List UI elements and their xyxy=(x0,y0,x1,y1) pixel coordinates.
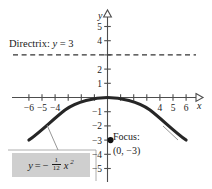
y-tick-label-4: 4 xyxy=(97,36,102,46)
y-tick-label--5: −5 xyxy=(92,164,102,174)
equation-fraction-numerator: 1 xyxy=(53,157,59,164)
x-tick-label--5: −5 xyxy=(37,103,47,113)
equation-exponent: 2 xyxy=(70,158,74,166)
x-tick-label-4: 4 xyxy=(158,103,163,113)
focus-label: Focus: xyxy=(113,132,140,142)
equation-equals: = xyxy=(35,160,41,171)
equation-variable: x xyxy=(64,160,69,171)
x-tick-label--6: −6 xyxy=(24,103,34,113)
y-tick-label-2: 2 xyxy=(97,65,102,75)
directrix-label: Directrix: y = 3 xyxy=(9,39,74,50)
equation-minus-sign: − xyxy=(43,160,49,171)
directrix-label-value: = 3 xyxy=(57,38,73,49)
equation-callout-box: y=−112x2 xyxy=(12,153,90,177)
y-tick-label--4: −4 xyxy=(92,150,102,160)
equation-fraction: 112 xyxy=(52,157,61,173)
y-axis-arrow-icon xyxy=(104,10,112,17)
y-tick-label--3: −3 xyxy=(92,136,102,146)
equation-lhs: y xyxy=(28,160,33,171)
x-tick-label--4: −4 xyxy=(50,103,60,113)
y-axis-label: y xyxy=(97,10,103,21)
directrix-label-prefix: Directrix: xyxy=(9,38,52,49)
equation-expression: y=−112x2 xyxy=(28,157,74,173)
x-tick-label-6: 6 xyxy=(184,103,189,113)
x-axis-label: x xyxy=(196,100,202,111)
x-tick-label-5: 5 xyxy=(171,103,176,113)
y-tick-label-1: 1 xyxy=(97,79,102,89)
equation-leader-line xyxy=(47,125,58,150)
y-tick-label--2: −2 xyxy=(92,121,102,131)
y-tick-label-5: 5 xyxy=(97,22,102,32)
y-tick-label--1: −1 xyxy=(92,107,102,117)
focus-coordinates-label: (0, −3) xyxy=(113,146,140,156)
equation-fraction-denominator: 12 xyxy=(52,165,61,172)
parabola-figure: −6 −5 −4 4 5 6 5 4 2 1 −1 −2 −3 −4 −5 y … xyxy=(0,0,212,189)
